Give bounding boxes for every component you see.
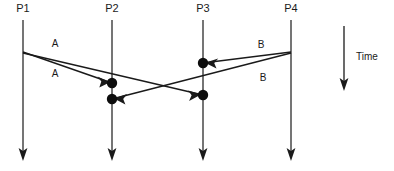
lifeline-p1 <box>19 20 28 161</box>
event-dot-p3-receive-2 <box>198 90 208 100</box>
message-label-a1: A <box>52 38 59 49</box>
lifeline-p4 <box>287 20 296 161</box>
process-label-p1: P1 <box>16 2 29 14</box>
lifeline-p2 <box>108 20 117 161</box>
spacetime-diagram: P1 P2 P3 P4 <box>0 0 394 171</box>
messages-group <box>23 52 291 104</box>
time-axis-label: Time <box>356 51 378 62</box>
message-labels-group: A A B B <box>52 38 267 83</box>
process-labels-group: P1 P2 P3 P4 <box>16 2 297 14</box>
message-label-b1: B <box>258 39 265 50</box>
process-label-p2: P2 <box>105 2 118 14</box>
message-a2-line <box>23 53 203 95</box>
process-label-p3: P3 <box>196 2 209 14</box>
event-dot-p3-receive-1 <box>198 58 208 68</box>
message-a1 <box>23 52 112 88</box>
process-label-p4: P4 <box>284 2 297 14</box>
message-a2 <box>23 53 203 101</box>
lifelines-group <box>19 20 296 161</box>
time-axis-group: Time <box>340 26 379 91</box>
event-dot-p2-receive-1 <box>107 78 117 88</box>
message-label-b2: B <box>260 72 267 83</box>
message-b1-line <box>203 52 291 63</box>
message-label-a2: A <box>52 68 59 79</box>
message-b1 <box>203 52 291 69</box>
diagram-canvas: P1 P2 P3 P4 <box>0 0 394 171</box>
event-dot-p2-receive-2 <box>107 94 117 104</box>
